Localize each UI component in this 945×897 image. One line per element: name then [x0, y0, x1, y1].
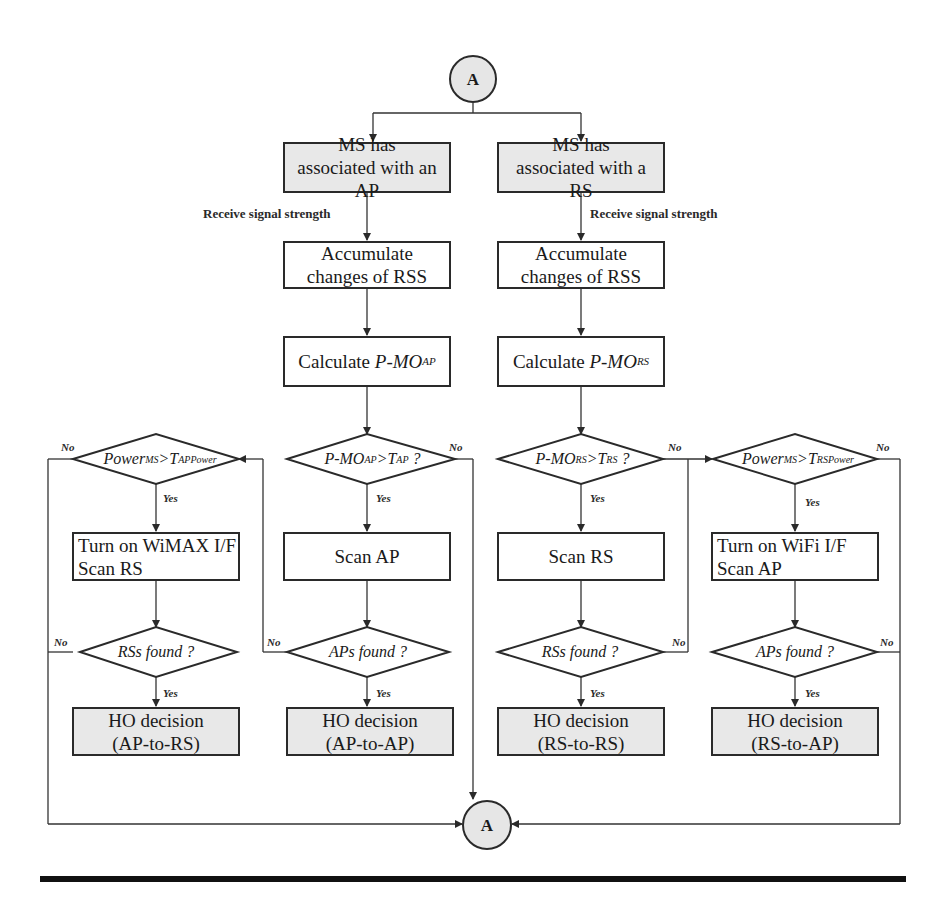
start-ap-box: MS has associated with an AP: [283, 142, 451, 193]
yes-label: Yes: [805, 496, 820, 508]
turn-on-wimax-box: Turn on WiMAX I/FScan RS: [72, 532, 240, 581]
ho-ap-to-rs-box: HO decision (AP-to-RS): [72, 707, 240, 756]
no-label: No: [880, 636, 893, 648]
connector-a-bottom: A: [462, 800, 512, 850]
decision-rss-found-mid: RSs found ?: [520, 641, 640, 663]
calculate-ap-box: Calculate P-MOAP: [283, 336, 451, 387]
decision-rss-found-left: RSs found ?: [96, 641, 216, 663]
no-label: No: [54, 636, 67, 648]
receive-signal-label-rs: Receive signal strength: [590, 206, 718, 222]
no-label: No: [267, 636, 280, 648]
ho-ap-to-ap-box: HO decision (AP-to-AP): [286, 707, 454, 756]
connector-label: A: [481, 814, 493, 837]
yes-label: Yes: [590, 687, 605, 699]
decision-aps-found-right: APs found ?: [735, 641, 855, 663]
yes-label: Yes: [590, 492, 605, 504]
yes-label: Yes: [376, 687, 391, 699]
decision-power-rs: PowerMS>TRSPower: [718, 448, 878, 470]
scan-rs-box: Scan RS: [497, 532, 665, 581]
accumulate-ap-box: Accumulate changes of RSS: [283, 241, 451, 289]
yes-label: Yes: [805, 687, 820, 699]
decision-pmo-rs: P-MORS>TRS ?: [505, 448, 660, 470]
no-label: No: [61, 441, 74, 453]
decision-aps-found-mid: APs found ?: [308, 641, 428, 663]
connector-a-top: A: [449, 55, 497, 103]
start-rs-box: MS has associated with a RS: [497, 142, 665, 193]
connector-label: A: [467, 68, 479, 91]
figure-bottom-rule: [40, 876, 906, 882]
scan-ap-box: Scan AP: [283, 532, 451, 581]
ho-rs-to-rs-box: HO decision (RS-to-RS): [497, 707, 665, 756]
yes-label: Yes: [163, 687, 178, 699]
no-label: No: [672, 636, 685, 648]
decision-pmo-ap: P-MOAP>TAP ?: [295, 448, 450, 470]
turn-on-wifi-box: Turn on WiFi I/FScan AP: [711, 532, 879, 581]
decision-power-ap: PowerMS>TAPPower: [80, 448, 240, 470]
calculate-rs-box: Calculate P-MORS: [497, 336, 665, 387]
yes-label: Yes: [376, 492, 391, 504]
accumulate-rs-box: Accumulate changes of RSS: [497, 241, 665, 289]
yes-label: Yes: [163, 492, 178, 504]
no-label: No: [876, 441, 889, 453]
ho-rs-to-ap-box: HO decision (RS-to-AP): [711, 707, 879, 756]
no-label: No: [449, 441, 462, 453]
no-label: No: [668, 441, 681, 453]
receive-signal-label-ap: Receive signal strength: [203, 206, 331, 222]
